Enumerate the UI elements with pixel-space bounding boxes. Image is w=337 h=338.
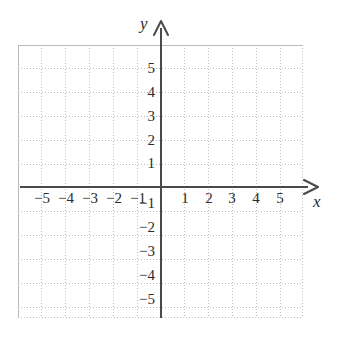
y-tick-label: 3 (135, 109, 155, 124)
grid-line-vertical (208, 45, 209, 318)
y-tick-label: 5 (135, 61, 155, 76)
x-tick-label: 1 (181, 191, 189, 206)
x-tick-label: −3 (82, 191, 98, 206)
grid-line-vertical (280, 45, 281, 318)
y-tick-label: −4 (130, 268, 155, 283)
grid-line-vertical (232, 45, 233, 318)
y-axis-label: y (140, 14, 148, 34)
coordinate-plane-figure: x y −5 −4 −3 −2 −1 1 2 3 4 5 5 4 3 2 1 −… (0, 0, 337, 338)
y-tick-label: −1 (130, 196, 155, 211)
grid-line-vertical (256, 45, 257, 318)
y-tick-label: −2 (130, 220, 155, 235)
x-tick-label: −5 (34, 191, 50, 206)
y-tick-label: −3 (130, 244, 155, 259)
x-tick-label: 4 (252, 191, 260, 206)
x-axis-label: x (313, 192, 321, 212)
y-tick-label: 2 (135, 133, 155, 148)
arrow-up-icon (152, 18, 170, 36)
y-tick-label: 1 (135, 156, 155, 171)
grid-line-vertical (65, 45, 66, 318)
grid-line-vertical (41, 45, 42, 318)
y-tick-label: 4 (135, 85, 155, 100)
grid-line-vertical (89, 45, 90, 318)
y-tick-label: −5 (130, 292, 155, 307)
x-tick-label: −2 (106, 191, 122, 206)
x-tick-label: 5 (276, 191, 284, 206)
x-tick-label: −4 (58, 191, 74, 206)
grid-line-vertical (184, 45, 185, 318)
y-axis (160, 28, 162, 318)
x-axis (20, 186, 308, 188)
x-tick-label: 3 (228, 191, 236, 206)
x-tick-label: 2 (205, 191, 213, 206)
grid-line-vertical (18, 45, 19, 318)
grid-line-vertical (113, 45, 114, 318)
